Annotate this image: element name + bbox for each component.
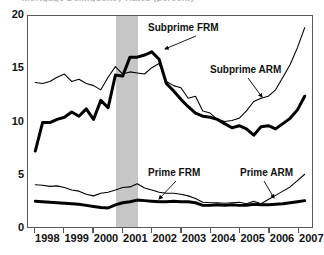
x-tick-label: 2004 <box>211 232 235 244</box>
plot-area <box>27 15 313 228</box>
y-tick-label: 0 <box>0 222 24 233</box>
annotation-label: Prime ARM <box>240 167 293 178</box>
y-tick-label: 15 <box>0 62 24 73</box>
annotation-label: Prime FRM <box>148 167 200 178</box>
series-line-prime-arm <box>35 174 304 204</box>
x-tick-label: 2001 <box>123 232 147 244</box>
series-lines <box>28 16 312 227</box>
x-tick-label: 2007 <box>299 232 323 244</box>
y-tick-label: 20 <box>0 9 24 20</box>
y-tick-label: 5 <box>0 169 24 180</box>
x-tick-label: 2003 <box>182 232 206 244</box>
y-axis-labels: 05101520 <box>0 0 24 255</box>
annotation-label: Subprime FRM <box>148 22 219 33</box>
y-tick-label: 10 <box>0 116 24 127</box>
x-tick-label: 2002 <box>152 232 176 244</box>
x-tick-label: 2005 <box>240 232 264 244</box>
chart-title-clipped: Mortgage Delinquency Rates (percent) <box>22 0 202 2</box>
x-tick-label: 2000 <box>94 232 118 244</box>
x-tick-label: 2006 <box>270 232 294 244</box>
x-tick-label: 1999 <box>64 232 88 244</box>
x-tick-label: 1998 <box>35 232 59 244</box>
annotation-label: Subprime ARM <box>210 64 281 75</box>
